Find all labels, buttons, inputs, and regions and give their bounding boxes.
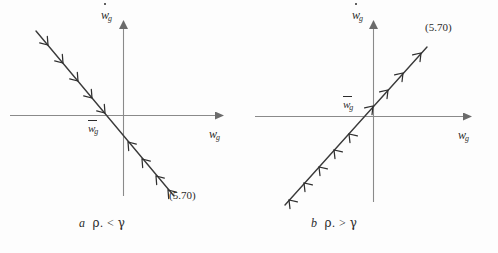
caption-b: b ρ. > γ [311, 216, 358, 231]
caption-gamma-b: γ [350, 216, 358, 230]
panel-a: wg wg wg (5.70) a ρ. < γ [0, 0, 249, 253]
caption-letter-b: b [311, 216, 318, 230]
y-axis-label-b: wg [352, 8, 363, 23]
trajectory-line-b [285, 47, 427, 205]
x-axis-label-b: wg [458, 128, 469, 143]
equation-ref-b: (5.70) [425, 21, 452, 33]
panel-b-plot [249, 0, 498, 253]
caption-operator-a: < [107, 216, 114, 230]
panel-b: wg wg wg (5.70) b ρ. > γ [249, 0, 498, 253]
caption-operator-b: > [339, 216, 346, 230]
caption-rho-b: ρ [325, 216, 333, 230]
caption-rho-a: ρ [93, 216, 101, 230]
caption-a: a ρ. < γ [79, 216, 126, 231]
equation-ref-a: (5.70) [169, 189, 196, 201]
caption-letter-a: a [79, 216, 86, 230]
caption-gamma-a: γ [118, 216, 126, 230]
y-axis-label-a: wg [101, 8, 112, 23]
equilibrium-label-a: wg [88, 122, 98, 136]
equilibrium-label-b: wg [343, 98, 353, 112]
phase-diagram-figure: wg wg wg (5.70) a ρ. < γ [0, 0, 498, 253]
x-axis-label-a: wg [209, 127, 220, 142]
